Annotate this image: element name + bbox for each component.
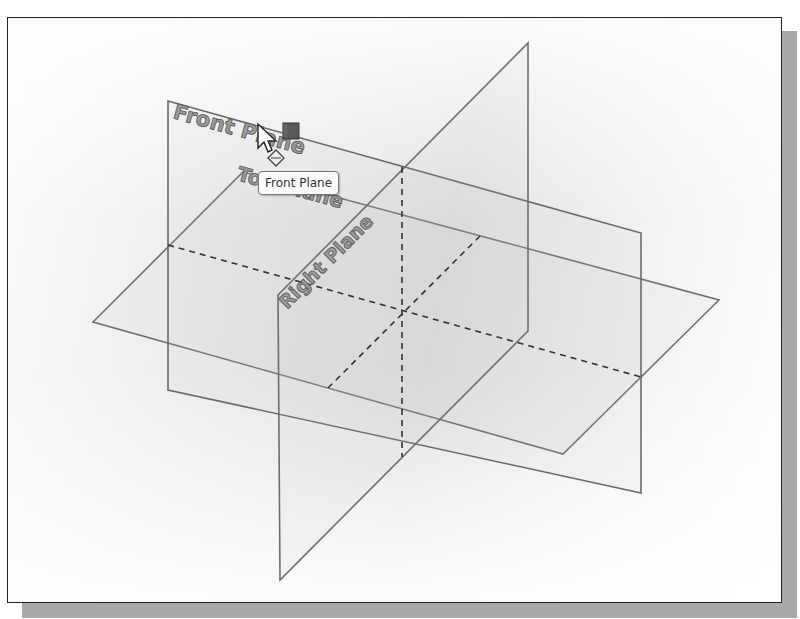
right-plane[interactable] <box>278 43 528 580</box>
plane-selection-icon <box>282 123 299 139</box>
tooltip: Front Plane <box>258 171 339 195</box>
datum-planes-scene: Front Plane Top Plane Right Plane <box>0 0 800 619</box>
